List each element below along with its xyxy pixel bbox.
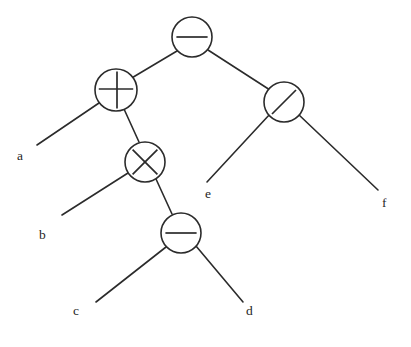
operator-node-times[interactable]	[125, 142, 165, 182]
edge-minus-to-d	[196, 246, 243, 302]
leaf-label-f[interactable]: f	[382, 196, 387, 210]
nodes-group	[95, 17, 304, 253]
operator-node-plus[interactable]	[95, 69, 137, 111]
edge-root-to-plus	[130, 51, 177, 79]
edge-divide-to-e	[207, 114, 270, 182]
operator-node-divide[interactable]	[264, 82, 304, 122]
edge-minus-to-c	[96, 247, 166, 302]
edge-plus-to-a	[37, 103, 99, 145]
edge-plus-to-times	[124, 109, 139, 142]
leaf-label-a[interactable]: a	[17, 149, 23, 163]
operator-node-minus[interactable]	[172, 17, 212, 57]
edge-root-to-divide	[208, 50, 270, 90]
expression-tree-diagram: abcdef	[0, 0, 411, 347]
edge-times-to-b	[62, 173, 128, 215]
leaf-label-b[interactable]: b	[39, 228, 46, 242]
leaf-label-e[interactable]: e	[205, 187, 211, 201]
caption-fragment	[150, 338, 270, 346]
edge-divide-to-f	[298, 114, 378, 190]
edge-times-to-minus	[156, 179, 172, 214]
edges-group	[37, 50, 378, 302]
operator-node-minus[interactable]	[161, 213, 201, 253]
leaf-label-c[interactable]: c	[73, 304, 79, 318]
tree-canvas	[0, 0, 411, 347]
node-circle-n2	[95, 69, 137, 111]
leaf-label-d[interactable]: d	[246, 304, 253, 318]
